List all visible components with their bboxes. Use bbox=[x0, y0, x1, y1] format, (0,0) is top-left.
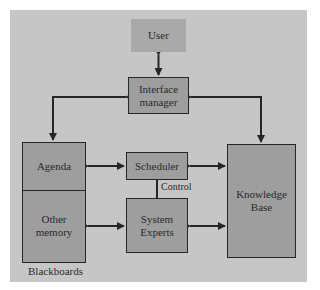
node-user: User bbox=[131, 19, 186, 52]
node-user-label: User bbox=[148, 29, 169, 42]
node-interface-manager-label: Interface manager bbox=[139, 83, 178, 109]
label-line: Experts bbox=[140, 226, 174, 238]
node-interface-manager: Interface manager bbox=[128, 77, 189, 114]
label-line: memory bbox=[36, 226, 73, 238]
control-label: Control bbox=[161, 181, 192, 192]
label-line: System bbox=[141, 213, 173, 225]
label-line: Base bbox=[251, 201, 272, 213]
node-other-memory: Other memory bbox=[22, 190, 86, 263]
node-knowledge-base: Knowledge Base bbox=[227, 144, 296, 258]
label-line: Other bbox=[41, 213, 66, 225]
node-system-experts-label: System Experts bbox=[140, 213, 174, 239]
label-line: Knowledge bbox=[236, 188, 287, 200]
node-scheduler: Scheduler bbox=[126, 152, 188, 180]
blackboards-label: Blackboards bbox=[28, 265, 83, 277]
node-agenda: Agenda bbox=[22, 142, 86, 191]
node-system-experts: System Experts bbox=[126, 198, 188, 253]
edge-interface-agenda bbox=[53, 97, 126, 140]
node-knowledge-base-label: Knowledge Base bbox=[236, 188, 287, 214]
node-agenda-label: Agenda bbox=[37, 160, 71, 173]
node-other-memory-label: Other memory bbox=[36, 213, 73, 239]
edge-interface-knowledge bbox=[191, 97, 261, 142]
label-line: Interface bbox=[139, 83, 178, 95]
node-scheduler-label: Scheduler bbox=[135, 160, 179, 173]
label-line: manager bbox=[140, 96, 178, 108]
